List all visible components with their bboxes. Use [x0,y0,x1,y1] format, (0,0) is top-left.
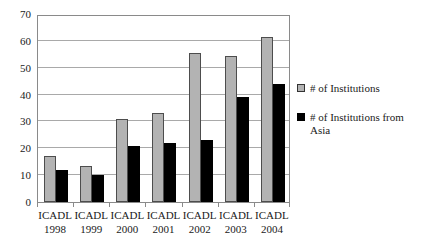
bar-2002-series-0 [189,53,201,202]
x-category-year: 2003 [218,222,254,236]
bar-group [74,16,110,202]
bar-group [255,16,291,202]
x-axis-category: ICADL1999 [73,208,109,236]
x-category-year: 1998 [37,222,73,236]
x-tick [37,203,38,207]
x-axis-category: ICADL2002 [182,208,218,236]
bar-2004-series-0 [261,37,273,202]
x-category-name: ICADL [145,208,181,222]
y-tick-label: 50 [20,63,31,74]
legend-label: # of Institutions from Asia [310,111,418,137]
legend-swatch-icon [297,113,305,121]
bar-chart: 706050403020100 ICADL1998ICADL1999ICADL2… [0,0,429,248]
legend: # of Institutions# of Institutions from … [297,82,427,153]
bar-group [110,16,146,202]
x-category-name: ICADL [218,208,254,222]
plot-area [37,15,290,203]
x-tick [218,203,219,207]
x-category-year: 1999 [73,222,109,236]
x-tick [145,203,146,207]
y-tick-label: 30 [20,116,31,127]
bar-1998-series-1 [56,170,68,202]
x-tick [254,203,255,207]
y-tick-label: 20 [20,143,31,154]
y-tick-label: 70 [20,9,31,20]
x-category-year: 2002 [182,222,218,236]
bar-group [219,16,255,202]
legend-label: # of Institutions [310,82,380,95]
bar-group [146,16,182,202]
x-category-name: ICADL [109,208,145,222]
legend-entry[interactable]: # of Institutions from Asia [297,111,427,137]
x-category-name: ICADL [37,208,73,222]
legend-entry[interactable]: # of Institutions [297,82,427,95]
x-tick [289,203,290,207]
bar-group [183,16,219,202]
x-category-year: 2001 [145,222,181,236]
x-tick [109,203,110,207]
bar-2003-series-1 [237,97,249,202]
x-category-year: 2004 [254,222,290,236]
x-axis-category: ICADL2000 [109,208,145,236]
bar-2000-series-1 [128,146,140,202]
bar-1998-series-0 [44,156,56,202]
x-axis-category: ICADL2004 [254,208,290,236]
x-axis-category: ICADL2003 [218,208,254,236]
y-axis: 706050403020100 [0,0,36,248]
x-category-name: ICADL [182,208,218,222]
y-tick-label: 0 [26,197,32,208]
bar-1999-series-1 [92,175,104,202]
y-tick-label: 10 [20,170,31,181]
bar-2002-series-1 [201,140,213,202]
bar-2001-series-1 [164,143,176,202]
y-tick-label: 40 [20,90,31,101]
x-axis-category: ICADL2001 [145,208,181,236]
x-category-name: ICADL [73,208,109,222]
bar-2004-series-1 [273,84,285,202]
x-category-name: ICADL [254,208,290,222]
y-tick-label: 60 [20,36,31,47]
bars-layer [38,16,289,202]
x-axis-category: ICADL1998 [37,208,73,236]
bar-1999-series-0 [80,166,92,202]
x-category-year: 2000 [109,222,145,236]
bar-group [38,16,74,202]
bar-2003-series-0 [225,56,237,202]
x-tick [182,203,183,207]
bar-2001-series-0 [152,113,164,202]
x-tick [73,203,74,207]
legend-swatch-icon [297,84,305,92]
bar-2000-series-0 [116,119,128,202]
x-axis-labels: ICADL1998ICADL1999ICADL2000ICADL2001ICAD… [37,208,290,248]
